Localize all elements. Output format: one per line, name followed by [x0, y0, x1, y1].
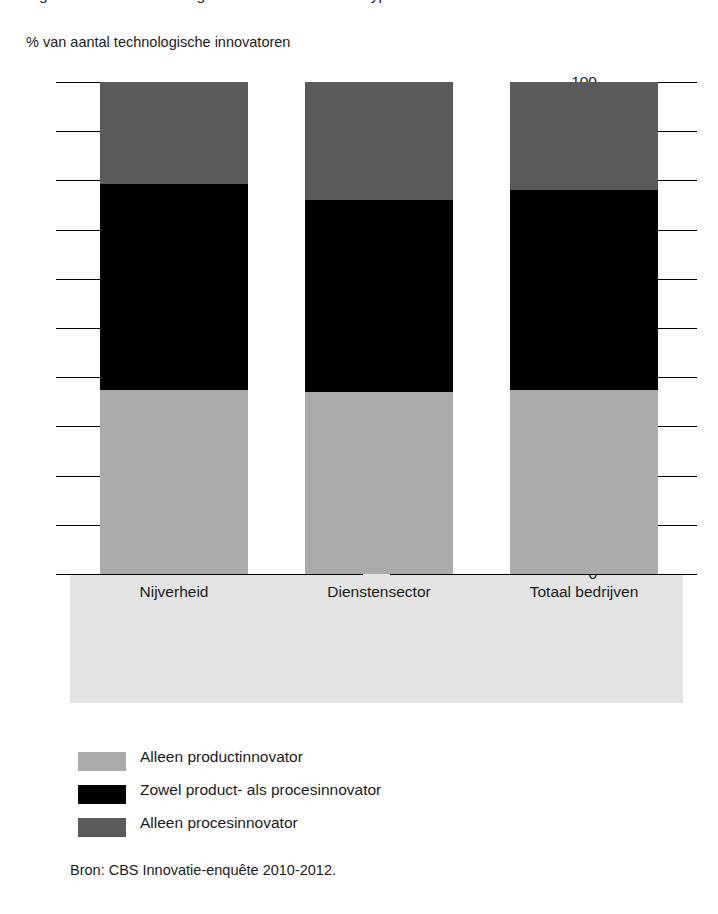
- bar-group[interactable]: [100, 82, 248, 574]
- y-tick-mark-left: [56, 230, 100, 231]
- bar-segment[interactable]: [305, 82, 453, 200]
- y-tick-mark-right: [653, 230, 697, 231]
- category-label: Nijverheid: [84, 583, 264, 601]
- bar-segment[interactable]: [510, 390, 658, 574]
- legend-swatch-product: [78, 752, 126, 771]
- bar-segment[interactable]: [100, 82, 248, 184]
- legend-label-product: Alleen productinnovator: [140, 748, 303, 766]
- y-tick-mark-left: [56, 377, 100, 378]
- category-label: Totaal bedrijven: [494, 583, 674, 601]
- y-tick-mark-right: [653, 131, 697, 132]
- legend-swatch-process: [78, 818, 126, 837]
- source-note: Bron: CBS Innovatie-enquête 2010-2012.: [70, 862, 336, 878]
- bar-segment[interactable]: [100, 390, 248, 574]
- y-tick-mark-right: [653, 180, 697, 181]
- legend-item: Alleen procesinnovator: [0, 814, 718, 847]
- legend-swatch-both: [78, 785, 126, 804]
- y-tick-mark-right: [653, 525, 697, 526]
- category-label-band: NijverheidDienstensectorTotaal bedrijven: [70, 575, 683, 623]
- y-tick-mark-right: [653, 82, 697, 83]
- legend-label-both: Zowel product- als procesinnovator: [140, 781, 381, 799]
- y-tick-mark-left: [56, 525, 100, 526]
- legend-item: Alleen productinnovator: [0, 748, 718, 781]
- bar-segment[interactable]: [305, 200, 453, 392]
- y-tick-mark-right: [653, 377, 697, 378]
- stacked-bar-chart: 0102030405060708090100 NijverheidDienste…: [0, 0, 718, 720]
- plot-frame: 0102030405060708090100: [70, 82, 683, 574]
- y-tick-mark-right: [653, 476, 697, 477]
- y-tick-mark-left: [56, 82, 100, 83]
- legend-item: Zowel product- als procesinnovator: [0, 781, 718, 814]
- y-tick-mark-left: [56, 476, 100, 477]
- legend-label-process: Alleen procesinnovator: [140, 814, 298, 832]
- bar-segment[interactable]: [305, 392, 453, 574]
- y-tick-mark-right: [653, 328, 697, 329]
- y-tick-mark-right: [653, 426, 697, 427]
- y-tick-mark-left: [56, 180, 100, 181]
- y-tick-mark-left: [56, 328, 100, 329]
- y-tick-mark-left: [56, 426, 100, 427]
- bar-segment[interactable]: [510, 190, 658, 390]
- category-label: Dienstensector: [289, 583, 469, 601]
- bar-segment[interactable]: [510, 82, 658, 190]
- bar-segment[interactable]: [100, 184, 248, 390]
- bar-group[interactable]: [305, 82, 453, 574]
- y-tick-mark-right: [653, 279, 697, 280]
- bar-group[interactable]: [510, 82, 658, 574]
- y-tick-mark-left: [56, 131, 100, 132]
- chart-legend: Alleen productinnovator Zowel product- a…: [0, 748, 718, 847]
- y-tick-mark-left: [56, 279, 100, 280]
